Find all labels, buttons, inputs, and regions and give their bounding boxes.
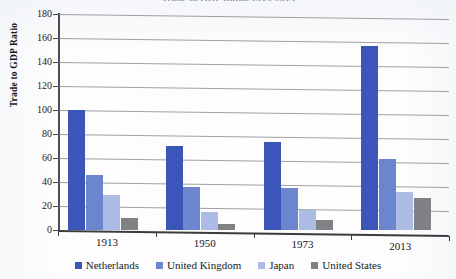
legend-swatch-icon xyxy=(311,262,318,269)
y-axis-tick-label: 140 xyxy=(6,57,52,67)
x-axis-label-1913: 1913 xyxy=(72,236,142,248)
legend-item-united-states[interactable]: United States xyxy=(311,259,381,271)
y-axis-tick xyxy=(53,86,59,87)
bar-united-states-1913[interactable] xyxy=(121,218,138,230)
bar-japan-1950[interactable] xyxy=(201,212,218,230)
x-axis-label-1950: 1950 xyxy=(170,237,240,249)
y-axis-tick xyxy=(53,158,59,159)
bar-united-kingdom-1973[interactable] xyxy=(281,188,298,230)
bar-united-states-1973[interactable] xyxy=(316,220,333,230)
y-axis-tick xyxy=(53,38,59,39)
y-axis-tick-label: 20 xyxy=(6,201,52,211)
bar-netherlands-1950[interactable] xyxy=(166,146,183,230)
x-axis-tick xyxy=(254,233,255,238)
legend-item-japan[interactable]: Japan xyxy=(258,259,294,271)
x-axis-label-2013: 2013 xyxy=(365,240,435,252)
y-axis-tick xyxy=(53,206,59,207)
bar-group-1950 xyxy=(156,14,254,230)
y-axis-tick-label: 180 xyxy=(6,9,52,19)
legend-swatch-icon xyxy=(75,262,82,269)
bar-netherlands-1913[interactable] xyxy=(68,110,85,230)
bar-united-states-2013[interactable] xyxy=(414,198,431,230)
bar-japan-2013[interactable] xyxy=(396,192,413,230)
bar-netherlands-2013[interactable] xyxy=(361,46,378,230)
y-axis-tick-label: 0 xyxy=(6,225,52,235)
bar-group-1973 xyxy=(254,14,352,230)
legend-swatch-icon xyxy=(258,262,265,269)
bar-united-kingdom-1950[interactable] xyxy=(183,187,200,230)
plot-area xyxy=(58,14,449,230)
legend-item-united-kingdom[interactable]: United Kingdom xyxy=(156,259,241,271)
y-axis-tick-label: 80 xyxy=(6,129,52,139)
legend-label: Japan xyxy=(269,259,294,271)
bar-united-kingdom-2013[interactable] xyxy=(379,159,396,230)
y-axis-tick xyxy=(53,182,59,183)
bar-united-kingdom-1913[interactable] xyxy=(86,175,103,230)
bar-united-states-1950[interactable] xyxy=(218,224,235,230)
y-axis-tick-label: 60 xyxy=(6,153,52,163)
bar-group-1913 xyxy=(58,14,156,230)
y-axis-tick xyxy=(53,134,59,135)
x-axis-tick xyxy=(449,236,450,241)
chart-title: Trade to GDP Ratio, 1913-2013 xyxy=(0,0,456,1)
y-axis-tick xyxy=(53,62,59,63)
y-axis-tick xyxy=(53,14,59,15)
chart-legend: NetherlandsUnited KingdomJapanUnited Sta… xyxy=(0,259,456,271)
bar-japan-1913[interactable] xyxy=(103,195,120,230)
x-axis-label-1973: 1973 xyxy=(267,238,337,250)
y-axis-tick-labels: 020406080100120140160180 xyxy=(0,0,52,279)
x-axis-tick xyxy=(156,232,157,237)
bar-group-2013 xyxy=(351,14,449,230)
legend-label: United Kingdom xyxy=(167,259,241,271)
y-axis-tick xyxy=(53,110,59,111)
bar-chart-figure: Trade to GDP Ratio, 1913-2013 Trade to G… xyxy=(0,0,456,279)
legend-item-netherlands[interactable]: Netherlands xyxy=(75,259,139,271)
legend-swatch-icon xyxy=(156,262,163,269)
y-axis-tick-label: 160 xyxy=(6,33,52,43)
bar-netherlands-1973[interactable] xyxy=(264,142,281,230)
y-axis-tick-label: 100 xyxy=(6,105,52,115)
x-axis-tick xyxy=(351,235,352,240)
x-axis-tick xyxy=(58,231,59,236)
legend-label: United States xyxy=(322,259,381,271)
legend-label: Netherlands xyxy=(86,259,139,271)
y-axis-tick-label: 40 xyxy=(6,177,52,187)
y-axis-tick-label: 120 xyxy=(6,81,52,91)
bar-japan-1973[interactable] xyxy=(299,210,316,230)
